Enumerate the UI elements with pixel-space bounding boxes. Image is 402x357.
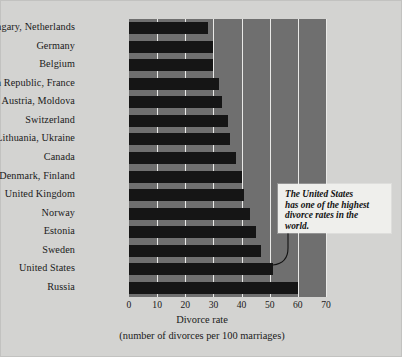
- x-tick-label-0: 0: [117, 299, 141, 310]
- category-label: Canada: [44, 151, 75, 162]
- category-label: Norway: [42, 207, 75, 218]
- category-label: Switzerland: [25, 114, 75, 125]
- category-label: United Kingdom: [5, 188, 75, 199]
- bar: [129, 263, 273, 275]
- bar-row: [129, 282, 326, 294]
- callout-line-3: divorce rates in the: [285, 210, 385, 221]
- bar-series: [129, 19, 326, 297]
- callout-line-4: world.: [285, 221, 385, 232]
- category-label: Germany: [36, 40, 75, 51]
- category-label: Austria, Moldova: [2, 95, 75, 106]
- bar: [129, 41, 213, 53]
- bar-row: [129, 171, 326, 183]
- bar: [129, 282, 298, 294]
- bar-row: [129, 115, 326, 127]
- bar: [129, 59, 213, 71]
- bar: [129, 133, 230, 145]
- bar: [129, 152, 236, 164]
- bar: [129, 96, 222, 108]
- bar-row: [129, 152, 326, 164]
- chart-figure: Hungary, NetherlandsGermanyBelgiumCzech …: [0, 0, 402, 357]
- category-label: Sweden: [42, 244, 75, 255]
- x-tick-label-30: 30: [201, 299, 225, 310]
- bar: [129, 189, 244, 201]
- category-label: Hungary, Netherlands: [0, 21, 75, 32]
- plot-area: [129, 19, 326, 297]
- x-tick-label-40: 40: [230, 299, 254, 310]
- category-label: Denmark, Finland: [0, 170, 75, 181]
- bar-row: [129, 59, 326, 71]
- x-tick-label-70: 70: [314, 299, 338, 310]
- bar-row: [129, 263, 326, 275]
- x-tick-label-50: 50: [258, 299, 282, 310]
- bar: [129, 226, 256, 238]
- bar-row: [129, 133, 326, 145]
- x-axis-subtitle: (number of divorces per 100 marriages): [1, 330, 402, 341]
- category-label: Russia: [47, 281, 75, 292]
- bar-row: [129, 22, 326, 34]
- bar: [129, 78, 219, 90]
- category-label: Belgium: [39, 58, 75, 69]
- callout-box: The United States has one of the highest…: [278, 184, 391, 233]
- bar: [129, 171, 242, 183]
- bar: [129, 22, 208, 34]
- x-tick-label-60: 60: [286, 299, 310, 310]
- bar-row: [129, 245, 326, 257]
- bar: [129, 115, 228, 127]
- bar-row: [129, 96, 326, 108]
- category-label: Lithuania, Ukraine: [0, 132, 75, 143]
- category-label: United States: [19, 262, 75, 273]
- bar-row: [129, 78, 326, 90]
- x-tick-label-10: 10: [145, 299, 169, 310]
- bar: [129, 208, 250, 220]
- callout-line-2: has one of the highest: [285, 200, 385, 211]
- category-label: Czech Republic, France: [0, 77, 75, 88]
- category-label: Estonia: [44, 225, 75, 236]
- bar-row: [129, 41, 326, 53]
- gridline-70: [326, 19, 327, 297]
- x-tick-label-20: 20: [173, 299, 197, 310]
- x-axis-title: Divorce rate: [1, 314, 402, 325]
- bar: [129, 245, 261, 257]
- callout-line-1: The United States: [285, 189, 385, 200]
